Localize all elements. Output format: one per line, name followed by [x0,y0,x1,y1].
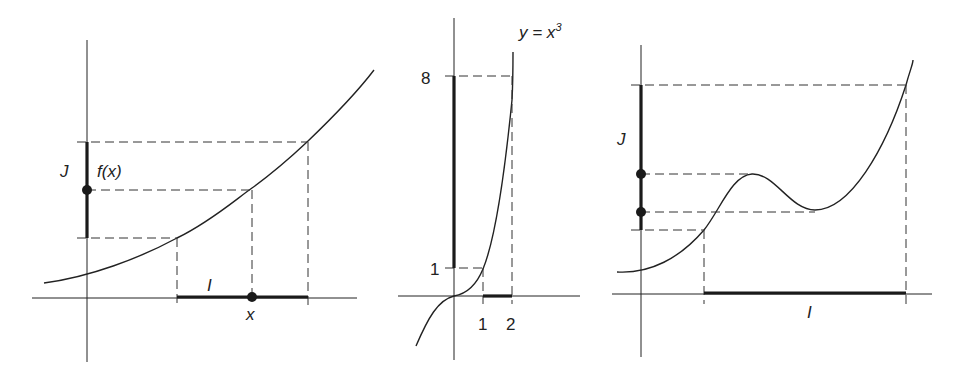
point-local-max [636,169,646,179]
tick-label-1-x: 1 [478,315,487,334]
function-curve [44,70,374,283]
panel-right: J I [612,45,932,357]
tick-label-2-x: 2 [506,315,515,334]
panel-middle: 8 1 1 2 y = x3 [398,18,580,360]
label-I: I [807,303,812,322]
cubic-curve [416,52,513,346]
point-fx [82,185,92,195]
tick-label-8: 8 [421,69,430,88]
label-J: J [616,130,626,149]
point-local-min [636,207,646,217]
panel-left: J f(x) I x [32,40,374,362]
label-I: I [207,276,212,295]
function-curve [617,60,913,272]
label-J: J [59,162,69,181]
point-x [247,292,257,302]
tick-label-1-y: 1 [430,260,439,279]
curve-label: y = x3 [518,21,562,42]
label-fx: f(x) [97,162,122,181]
figure: J f(x) I x 8 1 1 2 y = x3 [0,0,955,375]
label-x: x [245,305,255,324]
